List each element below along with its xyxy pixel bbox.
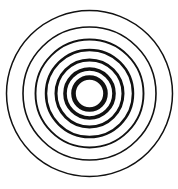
ring-2: [23, 27, 156, 160]
concentric-circles-figure: [0, 0, 178, 189]
ring-3: [36, 40, 144, 148]
ring-4: [46, 50, 133, 137]
concentric-rings-graphic: [0, 0, 178, 189]
ring-1: [7, 11, 173, 177]
ring-7: [74, 78, 106, 110]
